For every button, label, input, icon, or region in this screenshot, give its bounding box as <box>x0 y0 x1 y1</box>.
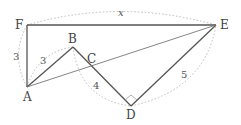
segment-ae <box>27 25 216 87</box>
segment-de <box>131 25 216 106</box>
length-de: 5 <box>181 69 187 80</box>
length-fa: 3 <box>13 51 19 62</box>
label-b: B <box>68 32 77 46</box>
geometry-diagram: F E A B C D x 3 3 4 5 <box>0 0 241 125</box>
right-angle-marker-d <box>125 95 137 100</box>
length-bd: 4 <box>93 80 99 91</box>
label-a: A <box>22 90 32 104</box>
label-d: D <box>126 108 136 122</box>
label-c: C <box>87 52 96 66</box>
arc-fa <box>19 25 28 87</box>
label-f: F <box>15 18 23 32</box>
segment-ab <box>27 47 73 87</box>
length-ab: 3 <box>40 55 46 66</box>
label-e: E <box>220 18 229 32</box>
length-fe: x <box>118 7 124 18</box>
